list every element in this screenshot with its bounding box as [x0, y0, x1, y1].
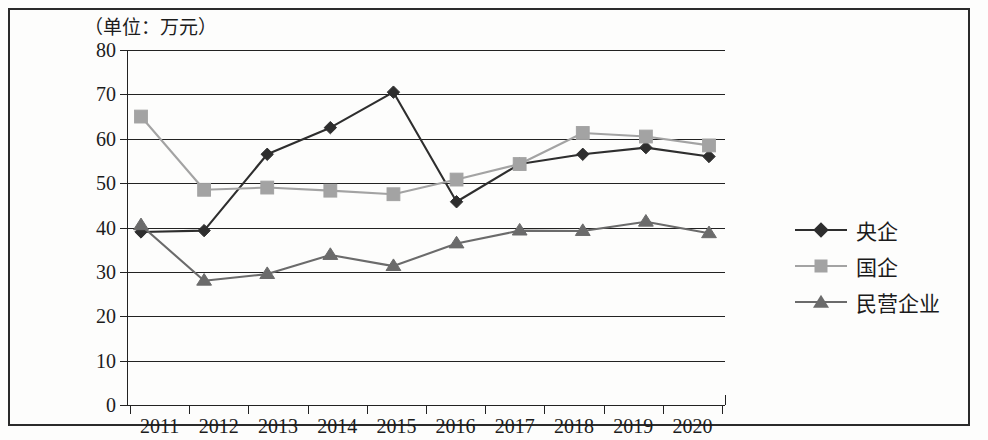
plot-right-cap	[725, 395, 726, 405]
data-point-marker	[576, 127, 589, 140]
data-point-marker	[513, 158, 526, 171]
y-axis-tick-label: 10	[96, 351, 116, 371]
legend-marker-diamond	[813, 222, 829, 238]
x-axis-tick-label: 2013	[258, 416, 298, 436]
data-point-marker	[512, 223, 527, 235]
y-axis-tick	[120, 183, 127, 184]
y-axis-tick-label: 70	[96, 84, 116, 104]
chart-legend: 央企国企民营企业	[795, 212, 940, 320]
data-point-marker	[450, 173, 463, 186]
y-axis-tick-label: 40	[96, 218, 116, 238]
legend-item[interactable]: 央企	[795, 212, 940, 248]
series-line	[141, 92, 709, 232]
data-point-marker	[703, 139, 716, 152]
y-axis-tick	[120, 94, 127, 95]
x-axis-tick	[308, 405, 309, 414]
legend-label: 央企	[856, 215, 898, 245]
series-triangle	[134, 215, 717, 286]
data-point-marker	[324, 184, 337, 197]
y-axis-tick-label: 0	[106, 395, 116, 415]
x-axis-tick-label: 2019	[613, 416, 653, 436]
chart-figure: （单位：万元） 01020304050607080 20112012201320…	[0, 0, 988, 440]
x-axis-tick	[722, 405, 723, 414]
series-square	[135, 110, 716, 200]
data-point-marker	[387, 86, 399, 98]
data-point-marker	[324, 121, 336, 133]
x-axis-tick	[367, 405, 368, 414]
series-diamond	[135, 86, 715, 238]
data-point-marker	[638, 215, 653, 227]
x-axis-tick-label: 2014	[317, 416, 357, 436]
y-axis-tick	[120, 405, 127, 406]
y-axis-tick-label: 30	[96, 262, 116, 282]
chart-unit-note: （单位：万元）	[84, 12, 217, 39]
data-point-marker	[639, 130, 652, 143]
series-line	[141, 117, 709, 195]
x-axis-tick-label: 2016	[436, 416, 476, 436]
x-axis-tick	[189, 405, 190, 414]
series-line	[141, 222, 709, 281]
x-axis-tick	[248, 405, 249, 414]
x-axis-tick	[544, 405, 545, 414]
legend-marker-square	[815, 260, 828, 273]
x-axis-tick	[485, 405, 486, 414]
y-axis-tick	[120, 139, 127, 140]
data-point-marker	[387, 188, 400, 201]
data-point-marker	[134, 218, 149, 230]
legend-swatch	[795, 219, 847, 241]
x-axis-tick	[426, 405, 427, 414]
data-point-marker	[323, 248, 338, 260]
y-axis-tick-label: 80	[96, 40, 116, 60]
legend-item[interactable]: 国企	[795, 248, 940, 284]
x-axis-tick	[130, 405, 131, 414]
x-axis-tick-label: 2020	[672, 416, 712, 436]
x-axis-tick-label: 2011	[140, 416, 179, 436]
y-axis-tick	[120, 272, 127, 273]
y-axis-tick-label: 50	[96, 173, 116, 193]
x-axis-tick-label: 2012	[199, 416, 239, 436]
legend-item[interactable]: 民营企业	[795, 284, 940, 320]
legend-swatch	[795, 291, 847, 313]
y-axis-tick-label: 20	[96, 306, 116, 326]
plot-area: 01020304050607080 2011201220132014201520…	[127, 50, 725, 405]
x-axis-tick	[663, 405, 664, 414]
legend-marker-triangle	[813, 295, 829, 308]
data-point-marker	[261, 181, 274, 194]
series-plot	[127, 50, 725, 405]
x-axis-tick	[604, 405, 605, 414]
x-axis-tick-label: 2018	[554, 416, 594, 436]
y-axis-tick-label: 60	[96, 129, 116, 149]
y-axis-tick	[120, 316, 127, 317]
data-point-marker	[450, 196, 462, 208]
data-point-marker	[198, 183, 211, 196]
data-point-marker	[135, 110, 148, 123]
legend-label: 民营企业	[856, 287, 940, 317]
x-axis-tick-label: 2017	[495, 416, 535, 436]
legend-swatch	[795, 255, 847, 277]
y-axis-tick	[120, 50, 127, 51]
legend-label: 国企	[856, 251, 898, 281]
y-axis-tick	[120, 228, 127, 229]
data-point-marker	[577, 148, 589, 160]
x-axis-tick-label: 2015	[376, 416, 416, 436]
y-axis-tick	[120, 361, 127, 362]
